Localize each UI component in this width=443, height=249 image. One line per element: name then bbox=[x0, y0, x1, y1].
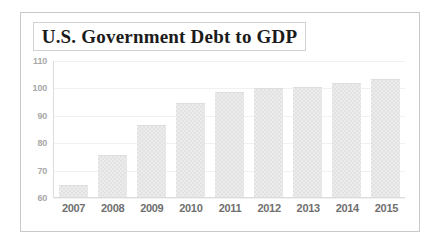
bar-2013[interactable] bbox=[293, 87, 323, 197]
bar-slot bbox=[327, 61, 366, 197]
bar-slot bbox=[210, 61, 249, 197]
bar-slot bbox=[249, 61, 288, 197]
chart-title-box: U.S. Government Debt to GDP bbox=[33, 22, 306, 51]
x-axis-tick-label: 2007 bbox=[54, 202, 93, 214]
plot-area: 60708090100110 bbox=[53, 61, 405, 198]
bar-slot bbox=[54, 61, 93, 197]
y-axis-tick-label: 70 bbox=[37, 166, 47, 176]
bar-2008[interactable] bbox=[98, 155, 128, 197]
x-axis-tick-label: 2013 bbox=[289, 202, 328, 214]
bar-slot bbox=[288, 61, 327, 197]
bar-slot bbox=[132, 61, 171, 197]
x-axis-tick-label: 2012 bbox=[250, 202, 289, 214]
bars-group bbox=[54, 61, 405, 197]
bar-slot bbox=[366, 61, 405, 197]
y-axis-tick-label: 100 bbox=[33, 83, 47, 93]
bar-2010[interactable] bbox=[176, 103, 206, 197]
y-axis-tick-label: 80 bbox=[37, 138, 47, 148]
bar-2009[interactable] bbox=[137, 125, 167, 197]
gridline bbox=[54, 198, 405, 199]
x-axis-tick-label: 2010 bbox=[171, 202, 210, 214]
bar-2011[interactable] bbox=[215, 92, 245, 197]
bar-slot bbox=[93, 61, 132, 197]
bar-slot bbox=[171, 61, 210, 197]
y-axis-tick-label: 110 bbox=[33, 56, 47, 66]
x-axis-tick-label: 2008 bbox=[93, 202, 132, 214]
y-axis-tick-label: 60 bbox=[37, 193, 47, 203]
bar-2014[interactable] bbox=[332, 83, 362, 197]
chart-figure-frame: U.S. Government Debt to GDP 607080901001… bbox=[20, 12, 420, 232]
x-axis-tick-label: 2015 bbox=[367, 202, 406, 214]
page-title: U.S. Government Debt to GDP bbox=[42, 27, 298, 46]
y-axis-tick-label: 90 bbox=[37, 111, 47, 121]
x-axis-tick-label: 2014 bbox=[328, 202, 367, 214]
x-axis-tick-label: 2009 bbox=[132, 202, 171, 214]
bar-2015[interactable] bbox=[371, 79, 401, 197]
bar-2007[interactable] bbox=[59, 185, 89, 197]
x-axis-tick-label: 2011 bbox=[210, 202, 249, 214]
bar-2012[interactable] bbox=[254, 88, 284, 197]
x-axis-tick-labels: 200720082009201020112012201320142015 bbox=[54, 202, 406, 214]
